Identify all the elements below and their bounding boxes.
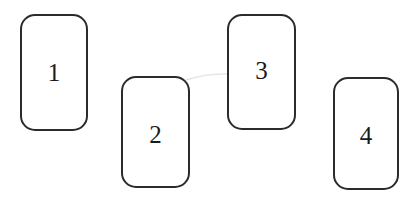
scan-artifact-line (186, 67, 232, 75)
rounded-rectangle-3[interactable]: 3 (227, 14, 296, 130)
rounded-rectangle-4-label: 4 (360, 123, 373, 148)
rounded-rectangle-2-label: 2 (149, 122, 162, 147)
rounded-rectangle-4[interactable]: 4 (333, 77, 399, 190)
rounded-rectangle-1-label: 1 (48, 60, 61, 85)
rounded-rectangle-2[interactable]: 2 (121, 76, 190, 188)
rounded-rectangle-1[interactable]: 1 (20, 14, 88, 131)
rounded-rectangle-3-label: 3 (255, 58, 268, 83)
figure-canvas: 1234 (0, 0, 420, 203)
